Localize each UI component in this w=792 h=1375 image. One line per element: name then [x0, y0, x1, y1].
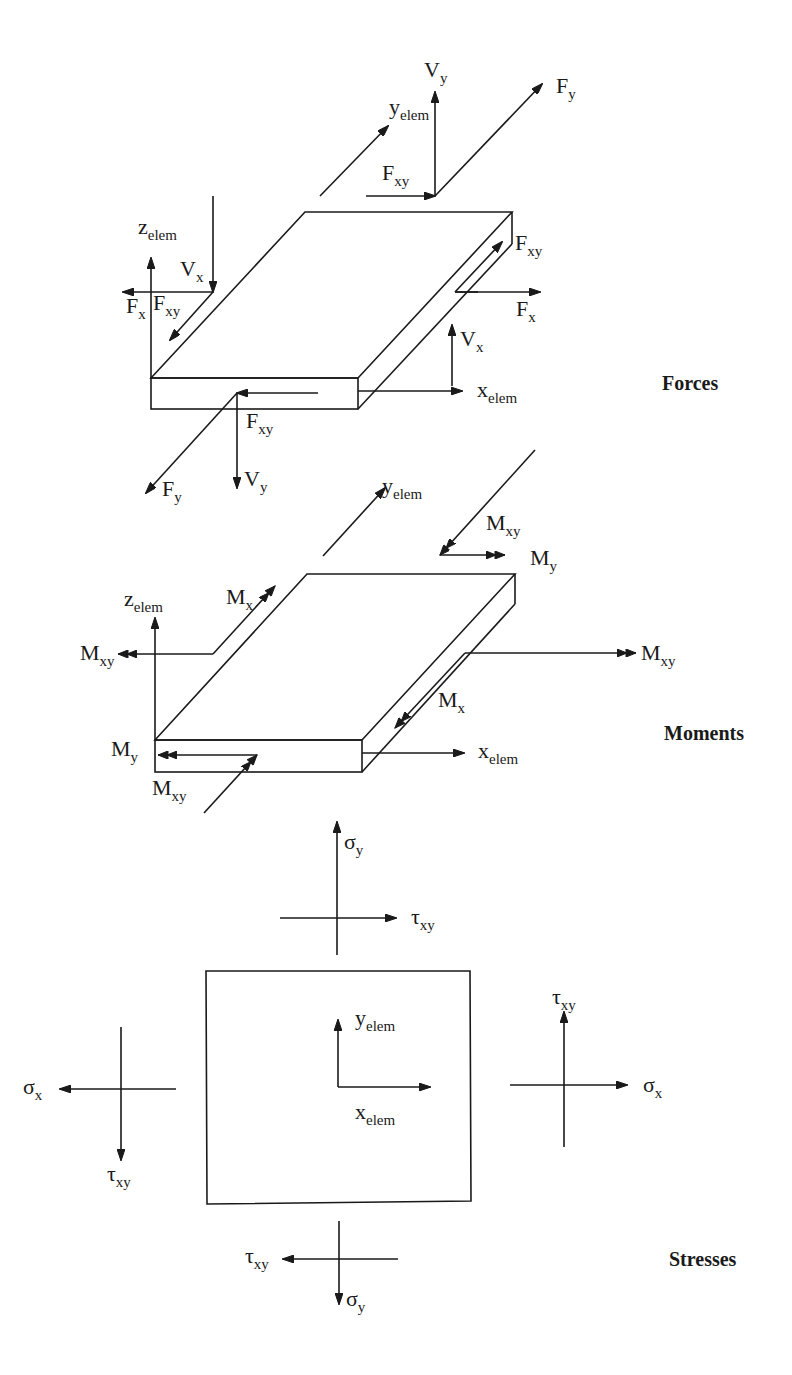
label-vy-bottom: Vy	[244, 466, 268, 495]
label-tau-xy-top: τxy	[411, 904, 435, 933]
label-mx-top: Mx	[226, 584, 254, 613]
label-sigma-x-right: σx	[643, 1072, 663, 1101]
label-fx-left: Fx	[126, 293, 146, 322]
section-title-forces: Forces	[662, 372, 718, 394]
moments-plate	[155, 574, 515, 772]
fy-top-arrow	[435, 84, 542, 196]
label-mxy-left: Mxy	[80, 640, 115, 669]
section-title-stresses: Stresses	[669, 1248, 737, 1270]
forces-plate	[151, 212, 512, 409]
label-fy-bottom: Fy	[162, 476, 182, 505]
label-tau-xy-right: τxy	[552, 984, 576, 1013]
label-x-elem: xelem	[478, 738, 518, 767]
label-fxy-right: Fxy	[515, 230, 543, 259]
label-y-elem: yelem	[389, 94, 429, 123]
label-tau-xy-left: τxy	[107, 1161, 131, 1190]
label-mxy-top: Mxy	[486, 510, 521, 539]
label-fxy-front: Fxy	[246, 408, 274, 437]
mxy-top-arrow	[440, 450, 535, 555]
fy-bottom-arrow	[146, 393, 237, 493]
label-x-elem: xelem	[477, 377, 517, 406]
y-elem-axis	[320, 126, 388, 196]
label-y-elem: yelem	[382, 473, 422, 502]
section-title-moments: Moments	[664, 722, 744, 744]
label-mxy-bottom: Mxy	[152, 775, 187, 804]
label-vx-left: Vx	[180, 256, 204, 285]
label-z-elem: zelem	[138, 214, 177, 243]
label-z-elem: zelem	[124, 586, 163, 615]
label-sigma-y-bottom: σy	[346, 1286, 366, 1315]
label-y-elem: yelem	[355, 1005, 395, 1034]
label-sigma-x-left: σx	[23, 1074, 43, 1103]
mxy-bottom-arrow	[204, 755, 257, 813]
label-mx-right: Mx	[438, 687, 466, 716]
label-my-top: My	[530, 545, 558, 574]
label-vx-right: Vx	[460, 326, 484, 355]
label-x-elem: xelem	[355, 1099, 395, 1128]
label-vy-top: Vy	[424, 57, 448, 86]
label-mxy-right: Mxy	[641, 640, 676, 669]
label-fy-top: Fy	[556, 73, 576, 102]
plate-element-diagram: zelem yelem Vy Fy Fxy Vx Fx Fxy Fxy Fx V…	[0, 0, 792, 1375]
label-fxy-left: Fxy	[153, 290, 181, 319]
y-elem-axis	[323, 488, 385, 556]
label-sigma-y-top: σy	[344, 829, 364, 858]
label-tau-xy-bottom: τxy	[245, 1243, 269, 1272]
label-fx-right: Fx	[516, 296, 536, 325]
forces-diagram: zelem yelem Vy Fy Fxy Vx Fx Fxy Fxy Fx V…	[123, 57, 718, 505]
stresses-diagram: σy τxy yelem xelem τxy σx σx τxy τxy σy …	[23, 822, 737, 1315]
label-fxy-top: Fxy	[382, 160, 410, 189]
label-my-left: My	[111, 736, 139, 765]
